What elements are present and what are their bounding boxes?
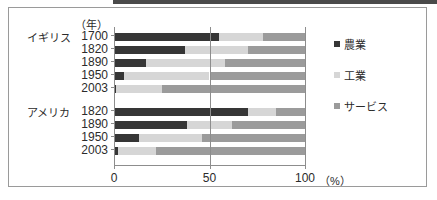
x-tick-label-50: 50 <box>190 171 230 185</box>
bar-segment-serv <box>248 46 305 54</box>
bar-segment-indu <box>248 108 277 116</box>
bar-segment-indu <box>219 33 263 41</box>
bar-segment-serv <box>276 108 305 116</box>
bar-segment-indu <box>139 134 202 142</box>
bar-segment-serv <box>263 33 305 41</box>
group-label-us: アメリカ <box>27 104 70 120</box>
year-label: 1890 <box>72 55 108 69</box>
legend-swatch-icon-agri <box>334 41 340 47</box>
year-label: 1950 <box>72 68 108 82</box>
legend-item-indu[interactable]: 工業 <box>334 67 388 83</box>
bar-segment-indu <box>146 59 224 67</box>
bar-segment-agri <box>114 108 248 116</box>
bar-segment-agri <box>114 134 139 142</box>
year-label: 1890 <box>72 117 108 131</box>
axis-line-zero <box>114 27 115 165</box>
year-label: 2003 <box>72 143 108 157</box>
year-label: 1950 <box>72 130 108 144</box>
bar-segment-serv <box>156 147 305 155</box>
gridline-50 <box>210 27 211 165</box>
x-tick-label-0: 0 <box>94 171 134 185</box>
year-label: 2003 <box>72 81 108 95</box>
gridline-100 <box>305 27 306 165</box>
bar-segment-serv <box>210 72 306 80</box>
legend-item-agri[interactable]: 農業 <box>334 36 388 52</box>
plot-area: （年） イギリス アメリカ 17001820189019502003182018… <box>9 8 426 186</box>
bar-segment-serv <box>162 85 305 93</box>
bar-segment-agri <box>114 121 187 129</box>
legend-swatch-icon-indu <box>334 72 340 78</box>
bar-segment-serv <box>225 59 305 67</box>
bar-segment-indu <box>116 85 162 93</box>
bar-segment-serv <box>202 134 305 142</box>
legend-swatch-icon-serv <box>334 103 340 109</box>
bar-segment-agri <box>114 59 146 67</box>
bar-segment-indu <box>118 147 156 155</box>
year-label: 1820 <box>72 42 108 56</box>
bar-segment-serv <box>232 121 305 129</box>
bar-segment-agri <box>114 33 219 41</box>
x-tickmark-50 <box>210 166 211 169</box>
chart-legend: 農業工業サービス <box>334 36 388 129</box>
year-label: 1820 <box>72 104 108 118</box>
legend-item-serv[interactable]: サービス <box>334 98 388 114</box>
x-tickmark-0 <box>114 166 115 169</box>
year-label: 1700 <box>72 29 108 43</box>
chart-frame: （年） イギリス アメリカ 17001820189019502003182018… <box>8 7 427 187</box>
legend-label: 農業 <box>344 36 366 52</box>
x-axis-unit-label: （%） <box>319 172 351 188</box>
bar-segment-indu <box>185 46 248 54</box>
legend-label: サービス <box>344 98 388 114</box>
top-edge-strip <box>113 0 437 4</box>
bar-segment-agri <box>114 72 124 80</box>
legend-label: 工業 <box>344 67 366 83</box>
x-tickmark-100 <box>305 166 306 169</box>
bar-segment-indu <box>124 72 210 80</box>
group-label-uk: イギリス <box>27 29 71 45</box>
bar-segment-agri <box>114 46 185 54</box>
